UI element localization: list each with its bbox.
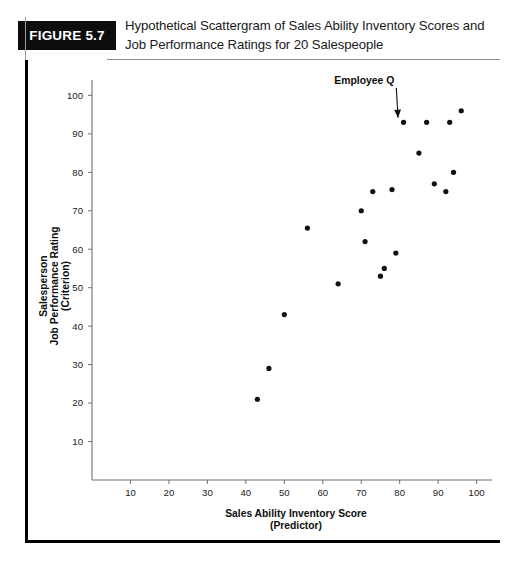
axes-group — [92, 80, 492, 480]
y-tick-label: 50 — [72, 282, 83, 293]
x-axis-subtitle: (Predictor) — [270, 520, 322, 531]
data-point — [255, 397, 260, 402]
data-point — [382, 266, 387, 271]
x-axis-title: Sales Ability Inventory Score — [225, 508, 367, 519]
data-point — [459, 108, 464, 113]
y-tick-label: 60 — [72, 244, 83, 255]
y-axis-title-line-2: Job Performance Rating — [49, 226, 60, 345]
data-point — [451, 170, 456, 175]
x-tick-label: 80 — [394, 487, 405, 498]
data-point — [370, 189, 375, 194]
data-point — [443, 189, 448, 194]
y-tick-label: 30 — [72, 359, 83, 370]
y-tick-label: 70 — [72, 205, 83, 216]
x-tick-label: 100 — [469, 487, 485, 498]
scatter-chart: 1020304050607080901001020304050607080901… — [0, 0, 517, 568]
y-tick-label: 80 — [72, 167, 83, 178]
annotation-arrow-head — [394, 110, 401, 118]
x-tick-label: 30 — [202, 487, 213, 498]
y-tick-label: 20 — [72, 397, 83, 408]
y-axis-title-line-3: (Criterion) — [60, 261, 71, 311]
data-point — [378, 274, 383, 279]
x-tick-label: 20 — [164, 487, 175, 498]
data-point — [336, 281, 341, 286]
data-point — [282, 312, 287, 317]
x-tick-label: 60 — [317, 487, 328, 498]
data-point — [362, 239, 367, 244]
data-point — [432, 181, 437, 186]
y-tick-label: 10 — [72, 436, 83, 447]
data-point — [266, 366, 271, 371]
data-points-group — [255, 108, 464, 402]
y-axis-title-line-1: Salesperson — [38, 255, 49, 316]
x-tick-label: 90 — [433, 487, 444, 498]
annotations-group: Employee Q — [334, 75, 401, 118]
axis-titles-group: Sales Ability Inventory Score(Predictor)… — [38, 226, 367, 531]
data-point — [359, 208, 364, 213]
ticks-group: 1020304050607080901001020304050607080901… — [67, 90, 485, 498]
data-point — [447, 120, 452, 125]
data-point — [416, 150, 421, 155]
data-point — [401, 120, 406, 125]
y-tick-label: 90 — [72, 128, 83, 139]
data-point — [393, 250, 398, 255]
y-tick-label: 100 — [67, 90, 83, 101]
x-tick-label: 10 — [125, 487, 136, 498]
data-point — [389, 187, 394, 192]
x-tick-label: 40 — [241, 487, 252, 498]
data-point — [305, 225, 310, 230]
annotation-label: Employee Q — [334, 75, 394, 86]
x-tick-label: 70 — [356, 487, 367, 498]
data-point — [424, 120, 429, 125]
x-tick-label: 50 — [279, 487, 290, 498]
figure-container: FIGURE 5.7 Hypothetical Scattergram of S… — [0, 0, 517, 568]
y-tick-label: 40 — [72, 321, 83, 332]
